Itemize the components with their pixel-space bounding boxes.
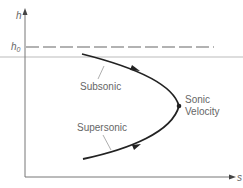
y-axis-arrow-icon [23,8,28,15]
h0-label-subscript: 0 [17,46,21,53]
supersonic-arrow-icon [132,144,141,150]
h0-label: h0 [11,41,21,53]
subsonic-leader [98,66,104,79]
x-axis-label: s [237,172,242,183]
supersonic-label: Supersonic [77,122,127,133]
subsonic-label: Subsonic [80,81,121,92]
supersonic-leader [103,135,111,150]
sonic-point [177,104,182,109]
h-s-diagram: h s h0 Subsonic Supersonic Sonic Velocit… [0,0,243,188]
x-axis-arrow-icon [229,175,236,180]
subsonic-arrow-icon [130,65,140,71]
y-axis-label: h [16,10,22,21]
sonic-label-line2: Velocity [185,106,219,117]
sonic-label-line1: Sonic [185,94,210,105]
